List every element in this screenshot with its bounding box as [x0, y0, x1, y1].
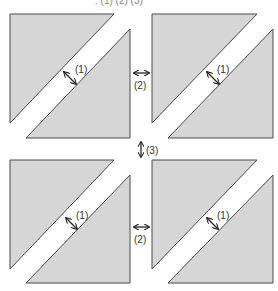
panel-top-right: (1)	[152, 14, 273, 138]
panel-bottom-left: (1)	[10, 160, 130, 283]
horizontal-gap-label-top: (2)	[134, 80, 146, 91]
diagram-canvas: : (1) (2) (3) (1) (1) (1) (1) (2) (2) (3…	[0, 0, 278, 291]
gap-label-1: (1)	[76, 210, 88, 221]
gap-label-1: (1)	[217, 210, 229, 221]
panel-bottom-right: (1)	[152, 160, 273, 283]
gap-label-1: (1)	[217, 64, 229, 75]
horizontal-gap-label-bottom: (2)	[134, 234, 146, 245]
vertical-gap-label: (3)	[146, 145, 158, 156]
top-caption: : (1) (2) (3)	[95, 0, 143, 6]
panel-top-left: (1)	[10, 14, 130, 138]
gap-label-1: (1)	[75, 64, 87, 75]
